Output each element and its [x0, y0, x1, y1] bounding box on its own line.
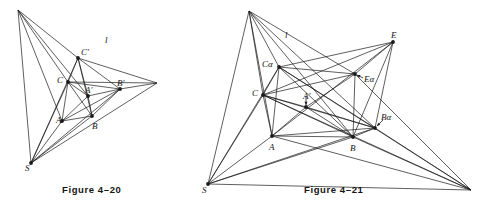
construction-line-C-A: [263, 95, 272, 136]
point-label-Ca: Cα: [262, 60, 273, 69]
point-B: [90, 114, 94, 118]
point-A: [270, 134, 274, 138]
construction-line-A-S: [31, 121, 62, 163]
figure-canvas: [0, 0, 486, 211]
point-C: [261, 93, 265, 97]
point-label-Bp: B′: [117, 79, 124, 88]
point-label-Ba: Bα: [381, 113, 391, 122]
construction-line-Ba-R: [375, 128, 471, 190]
point-label-A: A: [56, 116, 62, 125]
construction-line-Ca-B: [279, 67, 353, 137]
point-label-A: A: [269, 143, 275, 152]
construction-line-S-Bp: [31, 89, 120, 163]
construction-line-Bp-R: [120, 83, 157, 89]
point-Ba: [373, 126, 377, 130]
construction-line-C-R: [68, 82, 157, 83]
point-Ca: [277, 65, 281, 69]
construction-line-Ea-R: [355, 74, 471, 190]
construction-line-A-R: [272, 136, 471, 190]
point-Cp: [76, 56, 80, 60]
figure-4-20-caption: Figure 4–20: [62, 184, 121, 195]
figure-4-21-drawing: [206, 11, 471, 190]
construction-line-V-A: [18, 10, 62, 121]
construction-line-Ap-Ea: [306, 74, 355, 107]
construction-line-E-C: [263, 42, 393, 95]
construction-line-T-B: [249, 11, 353, 137]
point-label-S: S: [25, 164, 30, 173]
point-label-C: C: [252, 89, 258, 98]
construction-line-T-A: [249, 11, 272, 136]
point-label-Ap: A′: [85, 86, 92, 95]
point-Ap: [304, 105, 308, 109]
point-B: [351, 135, 355, 139]
construction-line-V-C: [18, 10, 68, 82]
construction-line-A-Ba: [272, 128, 375, 136]
construction-line-Ap-A: [272, 107, 306, 136]
line-label-l: l: [285, 31, 288, 40]
construction-line-B-Ea: [353, 74, 355, 137]
point-C: [66, 80, 70, 84]
point-label-B: B: [350, 144, 356, 153]
construction-line-S-C: [208, 95, 263, 184]
point-label-Ap: A′: [303, 92, 310, 101]
point-label-C: C: [57, 76, 63, 85]
point-E: [391, 40, 395, 44]
point-Ea: [353, 72, 357, 76]
construction-line-E-B: [353, 42, 393, 137]
point-label-Cp: C′: [81, 48, 89, 57]
construction-line-A-B: [272, 136, 353, 137]
point-label-Ea: Eα: [364, 75, 374, 84]
line-label-l: l: [105, 36, 108, 45]
arrow-to-A-prime-head: [305, 102, 308, 105]
construction-line-Ap-Bp: [88, 89, 120, 96]
figure-4-21-caption: Figure 4–21: [304, 184, 363, 195]
point-label-E: E: [391, 31, 397, 40]
construction-line-S-Cp: [31, 58, 78, 163]
construction-line-B-R: [353, 137, 471, 190]
construction-line-V-Cp: [18, 10, 78, 58]
construction-line-V-S: [18, 10, 31, 163]
point-label-S: S: [202, 186, 207, 195]
point-label-B: B: [92, 122, 98, 131]
